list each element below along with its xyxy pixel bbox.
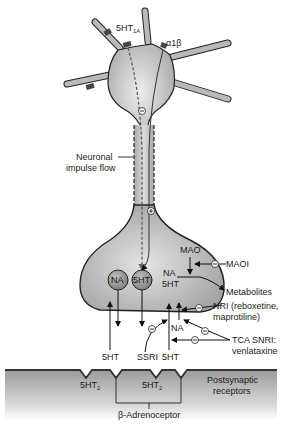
- svg-text:5HT: 5HT: [133, 275, 151, 285]
- label-nri-1: NRI (reboxetine,: [213, 301, 279, 311]
- label-metabolites: Metabolites: [226, 287, 273, 297]
- label-venlafaxine: venlataxine: [232, 346, 278, 356]
- excitation-symbol-axon: [148, 208, 155, 215]
- label-5ht-term: 5HT: [162, 279, 180, 289]
- label-alpha1beta: α1β: [166, 38, 181, 48]
- label-tca-snri: TCA SNRI:: [232, 335, 276, 345]
- label-maoi: MAOI: [226, 259, 249, 269]
- label-postsynaptic: Postsynaptic: [207, 375, 259, 385]
- label-5ht-left: 5HT: [102, 352, 120, 362]
- label-mao: MAO: [180, 245, 201, 255]
- label-receptors: receptors: [213, 386, 251, 396]
- label-5ht1a: 5HT1A: [116, 23, 140, 34]
- label-na-term: NA: [163, 268, 176, 278]
- label-5ht-right: 5HT: [162, 352, 180, 362]
- label-ssri: SSRI: [137, 352, 158, 362]
- vesicle-na: NA: [108, 270, 128, 290]
- synapse-diagram: 5HT1A α1β Neuronal impulse flow NA 5HT M…: [0, 0, 281, 428]
- vesicle-5ht: 5HT: [132, 270, 152, 290]
- svg-text:NA: NA: [111, 275, 124, 285]
- label-na-reuptake: NA: [171, 323, 184, 333]
- label-beta-adrenoceptor: β-Adrenoceptor: [118, 410, 180, 420]
- presynaptic-terminal: [80, 205, 224, 312]
- label-nri-2: maprotiline): [213, 312, 260, 322]
- label-impulse-flow: impulse flow: [66, 163, 116, 173]
- alpha1-receptor: α1β: [160, 38, 181, 49]
- label-neuronal: Neuronal: [76, 152, 113, 162]
- inhibition-symbol-soma: [139, 108, 146, 115]
